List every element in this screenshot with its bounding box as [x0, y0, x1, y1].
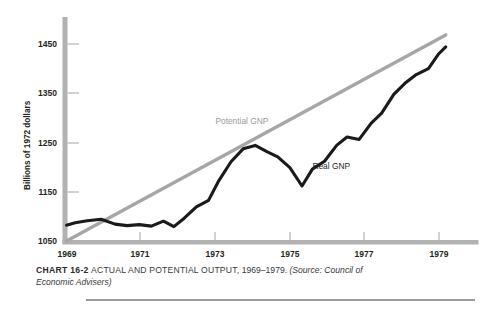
chart-figure: 1450 1350 1250 1150 1050 1969 1971 1973 …: [0, 0, 501, 316]
caption-years: 1969–1979: [242, 265, 285, 275]
x-tick-label-1975: 1975: [281, 249, 300, 259]
x-tick-label-1971: 1971: [131, 249, 150, 259]
series-annotation-real-gnp: Real GNP: [312, 161, 350, 171]
y-tick-label-1250: 1250: [38, 138, 57, 148]
x-tick-label-1977: 1977: [355, 249, 374, 259]
x-axis-ticks: [140, 232, 439, 240]
y-tick-label-1450: 1450: [38, 39, 57, 49]
caption-period-mark: .: [285, 265, 287, 275]
footer-rule: [86, 299, 475, 301]
chart-caption: CHART 16-2 ACTUAL AND POTENTIAL OUTPUT, …: [36, 264, 366, 289]
series-annotation-potential-gnp: Potential GNP: [215, 116, 268, 126]
y-axis-spine: [63, 17, 68, 244]
y-axis-ticks: [68, 44, 80, 192]
x-tick-label-1979: 1979: [430, 249, 449, 259]
caption-title: ACTUAL AND POTENTIAL OUTPUT,: [91, 265, 239, 275]
x-axis-spine: [63, 240, 479, 245]
y-tick-label-1350: 1350: [38, 88, 57, 98]
x-tick-label-1969: 1969: [58, 249, 77, 259]
caption-chart-number: CHART 16-2: [36, 265, 89, 275]
y-tick-label-1150: 1150: [39, 187, 58, 197]
y-axis-title: Billions of 1972 dollars: [23, 100, 32, 190]
series-line-potential-gnp: [67, 35, 446, 241]
x-tick-label-1973: 1973: [206, 249, 225, 259]
y-tick-label-1050: 1050: [38, 236, 57, 246]
